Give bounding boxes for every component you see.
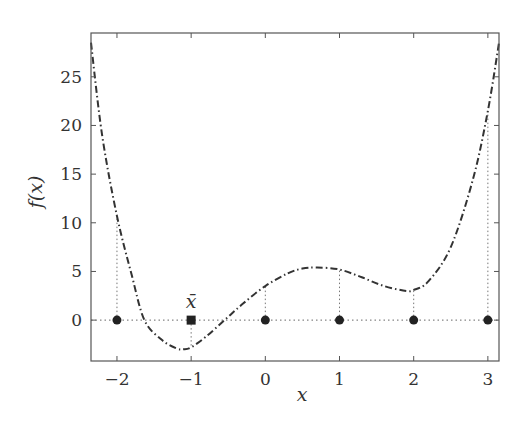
y-tick-label: 20 [60, 115, 82, 135]
x-axis-label: x [297, 383, 308, 405]
x-tick-label: 3 [482, 369, 493, 389]
x-tick-label: 0 [260, 369, 271, 389]
x-axis-ticks: −2−10123 [104, 33, 493, 389]
xbar-annotation: x̄ [186, 290, 197, 312]
x-tick-label: −2 [104, 369, 129, 389]
sample-point-circle [261, 316, 270, 325]
y-tick-label: 10 [60, 213, 82, 233]
x-tick-label: 2 [408, 369, 419, 389]
xbar-square-marker [187, 316, 196, 325]
chart: x̄ −2−10123 0510152025 x f(x) [0, 0, 531, 426]
y-axis-ticks: 0510152025 [60, 67, 499, 330]
y-tick-label: 5 [71, 261, 82, 281]
y-axis-label: f(x) [24, 176, 46, 211]
sample-point-circle [112, 316, 121, 325]
x-tick-label: −1 [179, 369, 204, 389]
drop-lines [117, 111, 488, 348]
sample-point-markers [112, 316, 492, 325]
sample-point-circle [335, 316, 344, 325]
sample-point-circle [483, 316, 492, 325]
x-tick-label: 1 [334, 369, 345, 389]
y-tick-label: 15 [60, 164, 82, 184]
function-curve [91, 43, 499, 350]
plot-area: x̄ [91, 43, 499, 350]
sample-point-circle [409, 316, 418, 325]
y-tick-label: 0 [71, 310, 82, 330]
y-tick-label: 25 [60, 67, 82, 87]
axes-frame [91, 33, 499, 361]
